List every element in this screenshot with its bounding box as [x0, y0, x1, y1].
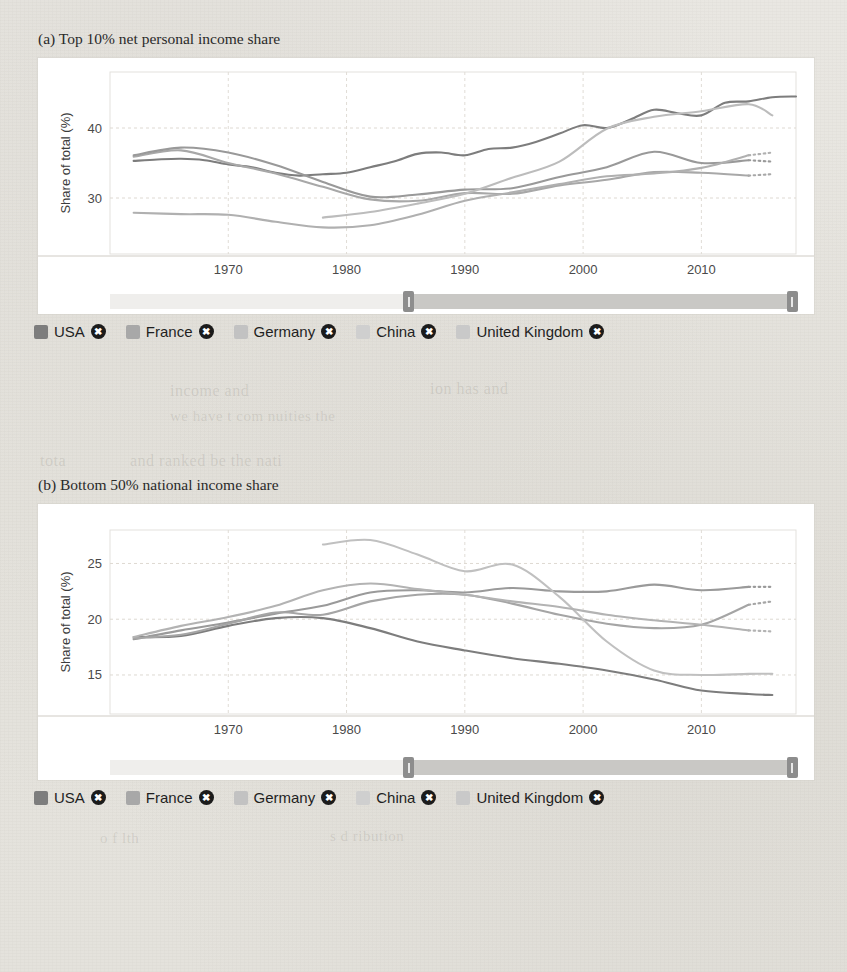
- legend-item-united-kingdom[interactable]: United Kingdom✖: [456, 323, 604, 340]
- legend-color-swatch: [234, 791, 248, 805]
- figure-bottom50-share: (b) Bottom 50% national income share 152…: [0, 476, 847, 815]
- svg-text:2010: 2010: [687, 262, 716, 277]
- chart-legend-b: USA✖France✖Germany✖China✖United Kingdom✖: [0, 780, 847, 815]
- slider-selected-range-a[interactable]: [408, 294, 792, 309]
- svg-text:20: 20: [88, 612, 102, 627]
- legend-item-france[interactable]: France✖: [126, 789, 214, 806]
- legend-remove-icon[interactable]: ✖: [321, 790, 336, 805]
- svg-text:1990: 1990: [450, 262, 479, 277]
- ghost-text: o f lth: [100, 830, 139, 847]
- legend-remove-icon[interactable]: ✖: [91, 790, 106, 805]
- time-range-slider-b[interactable]: [38, 754, 814, 780]
- legend-remove-icon[interactable]: ✖: [589, 790, 604, 805]
- legend-color-swatch: [356, 791, 370, 805]
- legend-label: USA: [54, 323, 85, 340]
- legend-color-swatch: [126, 325, 140, 339]
- legend-remove-icon[interactable]: ✖: [589, 324, 604, 339]
- chart-widget-b: 15202519701980199020002010Share of total…: [38, 504, 814, 780]
- legend-remove-icon[interactable]: ✖: [421, 324, 436, 339]
- ghost-text: and ranked be the nati: [130, 452, 282, 470]
- legend-item-usa[interactable]: USA✖: [34, 323, 106, 340]
- legend-label: United Kingdom: [476, 789, 583, 806]
- svg-text:30: 30: [88, 191, 102, 206]
- legend-item-united-kingdom[interactable]: United Kingdom✖: [456, 789, 604, 806]
- chart-widget-a: 304019701980199020002010Share of total (…: [38, 58, 814, 314]
- svg-text:Share of total (%): Share of total (%): [58, 112, 73, 213]
- legend-item-france[interactable]: France✖: [126, 323, 214, 340]
- svg-text:1980: 1980: [332, 722, 361, 737]
- legend-label: Germany: [254, 323, 316, 340]
- legend-item-usa[interactable]: USA✖: [34, 789, 106, 806]
- svg-text:1990: 1990: [450, 722, 479, 737]
- page-background: TABLE 1.1ast c ate wit assumin incommal …: [0, 0, 847, 972]
- legend-item-china[interactable]: China✖: [356, 323, 436, 340]
- slider-handle-right-b[interactable]: [787, 757, 798, 778]
- figure-b-caption: (b) Bottom 50% national income share: [0, 476, 847, 494]
- legend-color-swatch: [126, 791, 140, 805]
- legend-label: China: [376, 323, 415, 340]
- legend-color-swatch: [456, 325, 470, 339]
- svg-text:1970: 1970: [214, 262, 243, 277]
- slider-handle-right-a[interactable]: [787, 291, 798, 312]
- legend-color-swatch: [234, 325, 248, 339]
- svg-text:Share of total (%): Share of total (%): [58, 571, 73, 672]
- slider-handle-left-b[interactable]: [403, 757, 414, 778]
- legend-label: Germany: [254, 789, 316, 806]
- svg-text:25: 25: [88, 556, 102, 571]
- svg-text:1980: 1980: [332, 262, 361, 277]
- ghost-text: income and: [170, 382, 249, 400]
- ghost-text: we have t com nuities the: [170, 408, 335, 425]
- legend-item-china[interactable]: China✖: [356, 789, 436, 806]
- svg-text:15: 15: [88, 667, 102, 682]
- line-chart-a: 304019701980199020002010Share of total (…: [38, 58, 814, 288]
- figure-a-caption: (a) Top 10% net personal income share: [0, 30, 847, 48]
- legend-label: France: [146, 789, 193, 806]
- time-range-slider-a[interactable]: [38, 288, 814, 314]
- figure-top10-share: (a) Top 10% net personal income share 30…: [0, 30, 847, 349]
- legend-label: France: [146, 323, 193, 340]
- legend-label: China: [376, 789, 415, 806]
- slider-selected-range-b[interactable]: [408, 760, 792, 775]
- legend-remove-icon[interactable]: ✖: [91, 324, 106, 339]
- legend-color-swatch: [34, 791, 48, 805]
- slider-handle-left-a[interactable]: [403, 291, 414, 312]
- line-chart-b: 15202519701980199020002010Share of total…: [38, 504, 814, 754]
- legend-label: USA: [54, 789, 85, 806]
- legend-remove-icon[interactable]: ✖: [199, 324, 214, 339]
- plot-area-b: 15202519701980199020002010Share of total…: [38, 504, 814, 754]
- svg-text:2010: 2010: [687, 722, 716, 737]
- ghost-text: s d ribution: [330, 828, 404, 845]
- svg-text:2000: 2000: [569, 722, 598, 737]
- ghost-text: tota: [40, 452, 66, 470]
- legend-color-swatch: [456, 791, 470, 805]
- legend-item-germany[interactable]: Germany✖: [234, 323, 337, 340]
- svg-text:40: 40: [88, 121, 102, 136]
- chart-legend-a: USA✖France✖Germany✖China✖United Kingdom✖: [0, 314, 847, 349]
- legend-color-swatch: [34, 325, 48, 339]
- svg-text:1970: 1970: [214, 722, 243, 737]
- legend-remove-icon[interactable]: ✖: [199, 790, 214, 805]
- legend-remove-icon[interactable]: ✖: [421, 790, 436, 805]
- legend-item-germany[interactable]: Germany✖: [234, 789, 337, 806]
- svg-text:2000: 2000: [569, 262, 598, 277]
- legend-color-swatch: [356, 325, 370, 339]
- legend-remove-icon[interactable]: ✖: [321, 324, 336, 339]
- plot-area-a: 304019701980199020002010Share of total (…: [38, 58, 814, 288]
- legend-label: United Kingdom: [476, 323, 583, 340]
- ghost-text: ion has and: [430, 380, 508, 398]
